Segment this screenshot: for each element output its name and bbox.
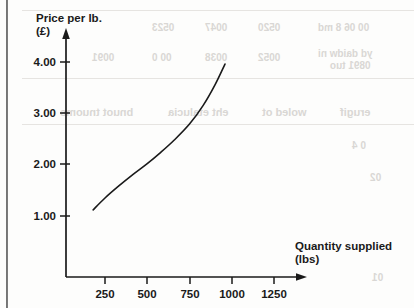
x-tick-label-750: 750: [180, 288, 199, 300]
y-axis-ticks: [60, 62, 70, 216]
supply-curve-line: [93, 64, 225, 210]
y-tick-label-2: 2.00: [34, 158, 56, 170]
chart-page: 05230047052000 06 8 md009100 000380052yd…: [0, 0, 414, 308]
y-axis-title: Price per lb.: [36, 12, 102, 24]
x-tick-label-1000: 1000: [219, 288, 245, 300]
y-axis: [62, 28, 70, 277]
supply-curve-chart: 4.00 3.00 2.00 1.00 250 500 750 1000 125…: [0, 0, 414, 308]
y-tick-label-4: 4.00: [34, 56, 56, 68]
x-axis-title: Quantity supplied: [295, 240, 392, 252]
x-tick-label-1250: 1250: [261, 288, 287, 300]
x-tick-label-250: 250: [95, 288, 114, 300]
x-axis-unit: (lbs): [295, 253, 319, 265]
y-tick-label-1: 1.00: [34, 210, 56, 222]
y-axis-unit: (£): [36, 25, 50, 37]
x-axis: [66, 273, 307, 281]
x-axis-arrowhead: [296, 273, 307, 281]
y-tick-label-3: 3.00: [34, 107, 56, 119]
x-tick-label-500: 500: [137, 288, 156, 300]
y-axis-arrowhead: [62, 28, 70, 39]
x-axis-ticks: [105, 277, 274, 284]
